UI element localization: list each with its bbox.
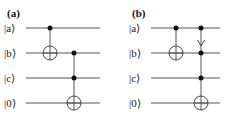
ket-a: |a⟩ [4, 22, 15, 34]
cnot-gate [169, 26, 183, 61]
control-dot [199, 26, 204, 31]
control-dot [72, 51, 77, 56]
ket-c: |c⟩ [129, 72, 140, 84]
panel-b-label: (b) [132, 7, 146, 20]
ket-a: |a⟩ [129, 22, 140, 34]
control-dot [72, 76, 77, 81]
ket-c: |c⟩ [4, 72, 15, 84]
ket-0: |0⟩ [129, 97, 141, 109]
control-dot [48, 26, 53, 31]
panel-a-label: (a) [7, 7, 20, 20]
control-dot [199, 76, 204, 81]
control-dot [174, 26, 179, 31]
cnot-gate [43, 26, 57, 61]
ket-b: |b⟩ [129, 47, 141, 59]
ket-0: |0⟩ [4, 97, 16, 109]
toffoli-gate [194, 26, 208, 111]
panel-a: (a) |a⟩ |b⟩ |c⟩ |0⟩ [4, 7, 100, 110]
ket-b: |b⟩ [4, 47, 16, 59]
panel-b: (b) |a⟩ |b⟩ |c⟩ |0⟩ [129, 7, 220, 110]
quantum-circuit-figure: (a) |a⟩ |b⟩ |c⟩ |0⟩ (b) |a⟩ |b⟩ |c⟩ |0⟩ [0, 0, 237, 121]
toffoli-gate [67, 51, 81, 111]
control-dot [199, 51, 204, 56]
